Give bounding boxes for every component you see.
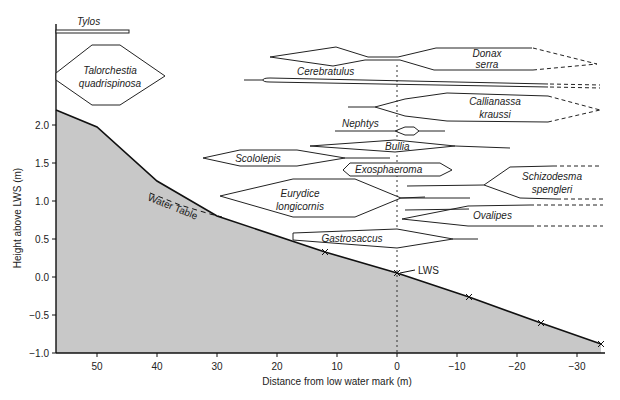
label-scololepis: Scololepis xyxy=(235,153,281,164)
zone-cerebratulus xyxy=(244,78,548,87)
label-talorchestia-1: Talorchestia xyxy=(83,65,137,76)
zone-callianassa-dashed xyxy=(548,96,600,122)
svg-text:10: 10 xyxy=(331,361,343,372)
zone-eurydice-tail xyxy=(401,197,470,198)
lws-label: LWS xyxy=(418,265,439,276)
svg-text:1.0: 1.0 xyxy=(35,196,49,207)
zone-donax-dashed xyxy=(533,48,597,70)
label-nephtys: Nephtys xyxy=(342,118,379,129)
label-talorchestia-2: quadrispinosa xyxy=(79,78,142,89)
label-eurydice-2: longicornis xyxy=(276,201,324,212)
label-donax-1: Donax xyxy=(473,48,503,59)
svg-text:2.0: 2.0 xyxy=(35,120,49,131)
label-tylos: Tylos xyxy=(77,16,100,27)
label-bullia: Bullia xyxy=(385,141,410,152)
label-eurydice-1: Eurydice xyxy=(281,188,320,199)
x-tick-labels: 50 40 30 20 10 0 −10 −20 −30 xyxy=(91,361,585,372)
svg-text:30: 30 xyxy=(211,361,223,372)
svg-text:1.5: 1.5 xyxy=(35,158,49,169)
zone-bullia-tail xyxy=(455,146,510,148)
zone-cerebratulus-dashed xyxy=(550,84,600,88)
label-exosphaeroma: Exosphaeroma xyxy=(355,164,423,175)
label-gastrosaccus: Gastrosaccus xyxy=(321,233,382,244)
svg-text:40: 40 xyxy=(151,361,163,372)
svg-text:0.5: 0.5 xyxy=(35,234,49,245)
label-cerebratulus: Cerebratulus xyxy=(297,66,354,77)
zone-tylos xyxy=(56,30,129,33)
svg-text:0: 0 xyxy=(394,361,400,372)
label-schizodesma-2: spengleri xyxy=(532,184,573,195)
svg-text:−20: −20 xyxy=(509,361,526,372)
svg-text:−10: −10 xyxy=(449,361,466,372)
svg-text:−30: −30 xyxy=(569,361,586,372)
svg-text:50: 50 xyxy=(91,361,103,372)
svg-text:−0.5: −0.5 xyxy=(29,310,49,321)
label-donax-2: serra xyxy=(476,59,499,70)
lws-pointer xyxy=(400,270,415,273)
label-ovalipes: Ovalipes xyxy=(473,210,512,221)
y-tick-labels: 2.0 1.5 1.0 0.5 0.0 −0.5 −1.0 xyxy=(29,120,49,359)
svg-text:−1.0: −1.0 xyxy=(29,348,49,359)
zone-ovalipes-dashed xyxy=(530,205,603,226)
beach-zonation-chart: Water Table LWS 2.0 1.5 1.0 0.5 0.0 −0.5… xyxy=(0,0,620,400)
svg-text:0.0: 0.0 xyxy=(35,272,49,283)
svg-text:20: 20 xyxy=(271,361,283,372)
label-callianassa-1: Callianassa xyxy=(469,96,521,107)
y-axis-label: Height above LWS (m) xyxy=(12,168,23,268)
x-axis-label: Distance from low water mark (m) xyxy=(262,376,411,387)
label-callianassa-2: kraussi xyxy=(479,109,511,120)
label-schizodesma-1: Schizodesma xyxy=(522,171,582,182)
zone-bullia xyxy=(310,140,455,152)
